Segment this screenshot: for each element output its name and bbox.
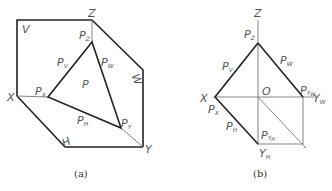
label-yh: YH [259, 147, 271, 160]
label-py: PY [121, 117, 133, 130]
label-y: Y [145, 143, 153, 156]
caption-b: (b) [253, 168, 267, 179]
label-x: X [199, 92, 208, 105]
label-pw: PW [280, 54, 294, 67]
label-o: O [262, 85, 271, 98]
label-v: V [22, 23, 31, 36]
label-pw: PW [101, 56, 115, 69]
label-ph: PH [77, 114, 89, 127]
label-ph: PH [226, 120, 238, 133]
label-pv: PV [222, 60, 234, 73]
label-pv: PV [57, 56, 69, 69]
label-pyh: PYH [261, 129, 275, 142]
caption-a: (a) [74, 168, 88, 179]
label-z: Z [87, 7, 96, 20]
label-x: X [6, 91, 15, 104]
label-z: Z [253, 7, 262, 20]
label-px: PX [35, 85, 47, 98]
label-p: P [82, 78, 89, 91]
figure-a: V Z X Y W H P PZ PV PW PX PH PY (a) [6, 7, 153, 179]
label-px: PX [208, 103, 220, 116]
label-pz: PZ [79, 29, 91, 42]
label-pyw: PYW [300, 84, 316, 97]
trace-ph [215, 97, 258, 144]
figure-b: Z X O YW YH PZ PV PW PX PH PYW PYH (b) [199, 7, 327, 179]
y-axis-segment [121, 128, 143, 147]
label-pz: PZ [244, 28, 256, 41]
projection-diagram: V Z X Y W H P PZ PV PW PX PH PY (a) Z X … [0, 0, 332, 191]
